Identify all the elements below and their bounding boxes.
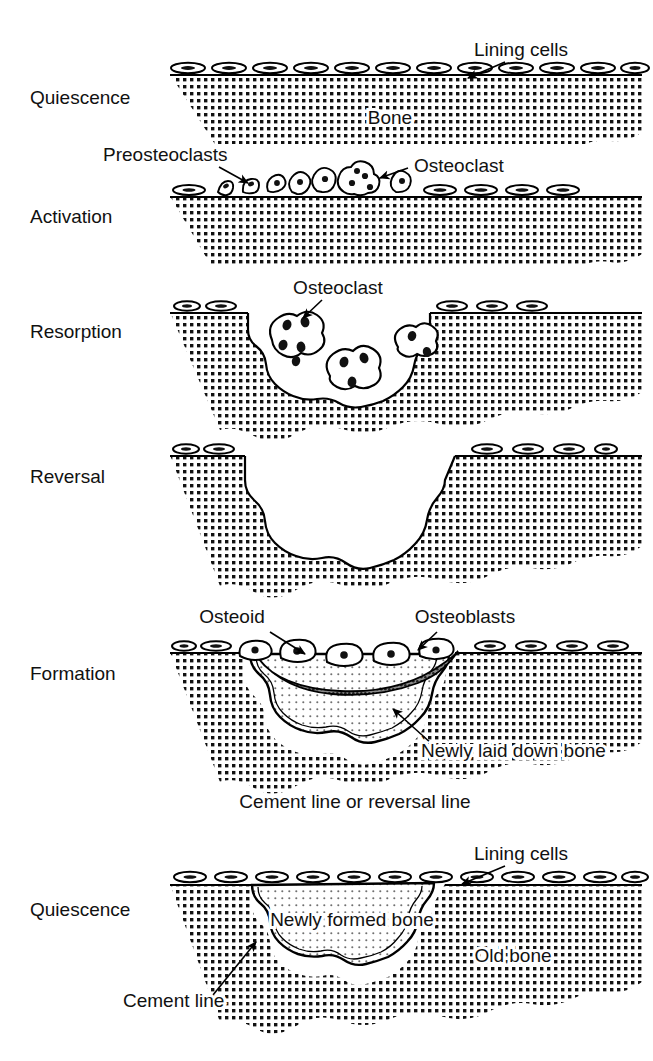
lining-cell <box>557 641 587 651</box>
lining-cell <box>335 63 369 73</box>
lining-cell <box>584 872 616 882</box>
osteoblast <box>373 643 409 665</box>
newly-formed-bone-label: Newly formed bone <box>270 909 434 930</box>
osteoclast <box>327 346 381 389</box>
lining-cell <box>256 872 288 882</box>
lining-cell <box>215 872 247 882</box>
lining-cell <box>516 641 546 651</box>
lining-cell <box>465 185 497 195</box>
cement-line-label: Cement line <box>123 990 224 1011</box>
lining-cell <box>502 872 534 882</box>
lining-cell <box>595 444 617 454</box>
bone-label: Bone <box>368 107 412 128</box>
lining-cell <box>540 63 574 73</box>
lining-cell <box>171 63 205 73</box>
old-bone-slab <box>168 196 644 266</box>
lining-cell <box>206 301 236 311</box>
preosteoclast <box>289 172 310 194</box>
osteoclast-label: Osteoclast <box>414 155 504 176</box>
lining-cell <box>554 444 584 454</box>
preosteoclast <box>391 171 411 192</box>
lining-cell <box>621 63 649 73</box>
lining-cell <box>499 63 533 73</box>
lining-cell <box>212 63 246 73</box>
lining-cell <box>420 872 452 882</box>
stage-label-quiescence-top: Quiescence <box>30 87 130 108</box>
lining-cell <box>201 641 231 651</box>
lining-cell <box>253 63 287 73</box>
lining-cells-label: Lining cells <box>474 39 568 60</box>
lining-cell <box>174 301 200 311</box>
lining-cell <box>472 444 502 454</box>
osteoclast <box>395 323 438 358</box>
osteoblast <box>240 641 272 660</box>
lining-cell <box>475 641 505 651</box>
lining-cell <box>506 185 538 195</box>
lining-cell <box>543 872 575 882</box>
lining-cell <box>379 872 411 882</box>
stage-label-quiescence-bottom: Quiescence <box>30 899 130 920</box>
lining-cell <box>547 185 579 195</box>
lining-cell <box>598 641 628 651</box>
osteoblast <box>280 640 315 662</box>
lining-cell <box>477 301 507 311</box>
lining-cell <box>581 63 615 73</box>
stage-label-activation: Activation <box>30 206 112 227</box>
osteoclast-label: Osteoclast <box>293 277 383 298</box>
osteoblast <box>326 644 362 666</box>
lining-cell <box>294 63 328 73</box>
preosteoclast <box>312 168 336 192</box>
lining-cell <box>173 444 199 454</box>
lining-cell <box>517 301 547 311</box>
lining-cell <box>458 63 492 73</box>
lining-cell <box>622 872 648 882</box>
lining-cell <box>417 63 451 73</box>
lining-cells-label: Lining cells <box>474 843 568 864</box>
stage-label-formation: Formation <box>30 663 116 684</box>
newly-laid-down-bone-label: Newly laid down bone <box>421 740 606 761</box>
lining-cell <box>424 185 456 195</box>
stage-label-resorption: Resorption <box>30 321 122 342</box>
lining-cell <box>172 641 196 651</box>
lining-cell <box>376 63 410 73</box>
lining-cell <box>204 444 234 454</box>
lining-cell <box>513 444 543 454</box>
bone-remodeling-diagram: Lining cells Bone Quiescence <box>0 0 653 1061</box>
lining-cell <box>297 872 329 882</box>
osteoblast <box>419 639 453 659</box>
osteoid-label: Osteoid <box>199 606 264 627</box>
lining-cell <box>174 872 206 882</box>
bone-remodeling-figure: Lining cells Bone Quiescence <box>0 0 653 1061</box>
lining-cell <box>338 872 370 882</box>
old-bone-label: Old bone <box>474 945 551 966</box>
stage-label-reversal: Reversal <box>30 466 105 487</box>
osteoblasts-label: Osteoblasts <box>415 606 515 627</box>
lining-cell <box>173 185 205 195</box>
preosteoclasts-label: Preosteoclasts <box>103 144 228 165</box>
cement-line-caption: Cement line or reversal line <box>239 791 470 812</box>
lining-cell <box>437 301 467 311</box>
